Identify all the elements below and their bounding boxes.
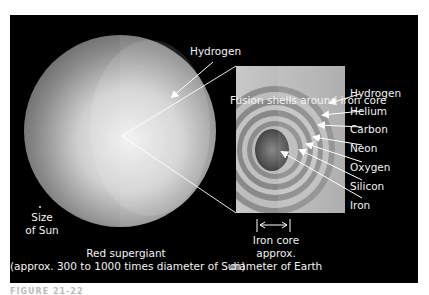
red-supergiant-label-line1: Red supergiant: [10, 247, 242, 260]
red-supergiant-label-line2: (approx. 300 to 1000 times diameter of S…: [10, 260, 242, 273]
red-supergiant-label: Red supergiant (approx. 300 to 1000 time…: [10, 247, 242, 273]
shell-label-carbon: Carbon: [350, 123, 388, 136]
iron-core-scale-bar: [257, 219, 290, 232]
shell-label-neon: Neon: [350, 142, 377, 155]
sun-size-dot: [39, 206, 41, 208]
hydrogen-envelope-label: Hydrogen: [190, 45, 241, 58]
shell-label-iron: Iron: [350, 199, 370, 212]
sun-size-label-line1: Size: [20, 211, 64, 224]
shell-label-silicon: Silicon: [350, 180, 384, 193]
shell-label-helium: Helium: [350, 105, 387, 118]
sun-size-label: Size of Sun: [20, 211, 64, 237]
iron-core-label-line2: approx.: [228, 247, 324, 260]
shell-label-oxygen: Oxygen: [350, 161, 390, 174]
figure-caption: FIGURE 21-22: [10, 287, 84, 295]
fusion-shells-inset: [215, 66, 345, 214]
shell-label-hydrogen: Hydrogen: [350, 87, 401, 100]
sun-size-label-line2: of Sun: [20, 224, 64, 237]
iron-core-label-line1: Iron core: [228, 234, 324, 247]
red-supergiant-star: [24, 35, 216, 227]
diagram-panel: Fusion shells around iron core Hydrogen …: [10, 15, 418, 283]
